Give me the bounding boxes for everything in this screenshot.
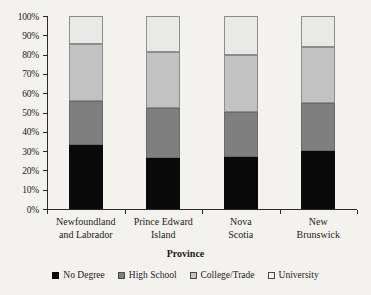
y-axis-tick-label: 20%	[22, 166, 39, 176]
x-axis-category-label-line: Island	[125, 229, 203, 242]
legend-item-label: No Degree	[63, 270, 104, 280]
x-axis-category-label: NewBrunswick	[280, 216, 358, 241]
y-axis-line	[47, 16, 48, 210]
x-axis-tick	[125, 210, 126, 214]
x-axis-category-label-line: Newfoundland	[47, 216, 125, 229]
y-axis-tick-label: 60%	[22, 89, 39, 99]
bar-segment	[224, 112, 258, 157]
bar-segment	[224, 16, 258, 55]
legend-item[interactable]: University	[268, 270, 319, 280]
bar-segment	[301, 47, 335, 103]
bar-segment	[301, 103, 335, 151]
legend-swatch-icon	[118, 272, 125, 279]
bar-segment	[146, 52, 180, 108]
y-axis-tick: 100%	[43, 16, 47, 17]
bar-column	[301, 16, 335, 209]
plot-area: 0%10%20%30%40%50%60%70%80%90%100%	[47, 16, 357, 210]
y-axis-tick: 70%	[43, 74, 47, 75]
bar-segment	[146, 108, 180, 158]
bar-segment	[301, 151, 335, 209]
bar-segment	[69, 101, 103, 145]
x-axis-category-label-line: Nova	[202, 216, 280, 229]
y-axis-tick: 20%	[43, 170, 47, 171]
x-axis-category-label-line: and Labrador	[47, 229, 125, 242]
chart-legend: No DegreeHigh SchoolCollege/TradeUnivers…	[0, 270, 371, 280]
y-axis-tick-label: 0%	[27, 205, 39, 215]
legend-swatch-icon	[52, 272, 59, 279]
x-axis-category-label: NovaScotia	[202, 216, 280, 241]
legend-item-label: College/Trade	[201, 270, 255, 280]
bar-segment	[224, 157, 258, 209]
x-axis-category-label-line: Brunswick	[280, 229, 358, 242]
bar-segment	[146, 158, 180, 209]
legend-swatch-icon	[268, 272, 275, 279]
x-axis-tick	[47, 210, 48, 214]
bar-segment	[146, 16, 180, 52]
y-axis-tick: 40%	[43, 132, 47, 133]
x-axis-tick	[202, 210, 203, 214]
y-axis-tick-label: 90%	[22, 31, 39, 41]
legend-item[interactable]: College/Trade	[190, 270, 255, 280]
bar-segment	[69, 145, 103, 209]
bar-column	[146, 16, 180, 209]
y-axis-tick-label: 70%	[22, 69, 39, 79]
x-axis-category-label-line: New	[280, 216, 358, 229]
x-axis-tick	[280, 210, 281, 214]
y-axis-tick: 30%	[43, 151, 47, 152]
legend-item[interactable]: High School	[118, 270, 177, 280]
y-axis-tick-label: 30%	[22, 147, 39, 157]
bar-segment	[69, 16, 103, 44]
stacked-bar-chart: 0%10%20%30%40%50%60%70%80%90%100% Newfou…	[0, 0, 371, 295]
y-axis-tick-label: 40%	[22, 127, 39, 137]
legend-item-label: University	[279, 270, 319, 280]
y-axis-tick: 80%	[43, 55, 47, 56]
x-axis-category-label: Prince EdwardIsland	[125, 216, 203, 241]
y-axis-tick-label: 10%	[22, 185, 39, 195]
x-axis-category-label: Newfoundlandand Labrador	[47, 216, 125, 241]
legend-item[interactable]: No Degree	[52, 270, 104, 280]
bar-column	[224, 16, 258, 209]
bar-segment	[224, 55, 258, 112]
y-axis-tick: 10%	[43, 190, 47, 191]
x-axis-category-label-line: Scotia	[202, 229, 280, 242]
x-axis-title: Province	[0, 248, 371, 259]
y-axis-tick-label: 80%	[22, 50, 39, 60]
y-axis-tick: 60%	[43, 93, 47, 94]
x-axis-tick	[357, 210, 358, 214]
bar-column	[69, 16, 103, 209]
bar-segment	[69, 44, 103, 101]
bar-segment	[301, 16, 335, 47]
legend-item-label: High School	[129, 270, 177, 280]
y-axis-tick: 90%	[43, 35, 47, 36]
x-axis-category-label-line: Prince Edward	[125, 216, 203, 229]
y-axis-tick-label: 100%	[18, 12, 39, 22]
y-axis-tick: 50%	[43, 113, 47, 114]
y-axis-tick-label: 50%	[22, 108, 39, 118]
legend-swatch-icon	[190, 272, 197, 279]
